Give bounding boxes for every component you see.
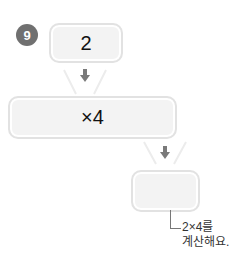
problem-number-badge: 9	[16, 24, 38, 46]
hint-line-1: 2×4를	[182, 220, 229, 235]
operation-box: ×4	[8, 96, 177, 139]
hint-line-2: 계산해요.	[182, 235, 229, 250]
answer-input-box[interactable]	[131, 170, 200, 212]
start-value-box: 2	[49, 23, 123, 63]
hint-connector-line	[170, 210, 181, 229]
down-arrow-icon	[160, 146, 170, 159]
operation-label: ×4	[81, 106, 104, 129]
start-value: 2	[80, 32, 91, 55]
down-arrow-icon	[80, 69, 90, 82]
hint-text: 2×4를 계산해요.	[182, 220, 229, 250]
